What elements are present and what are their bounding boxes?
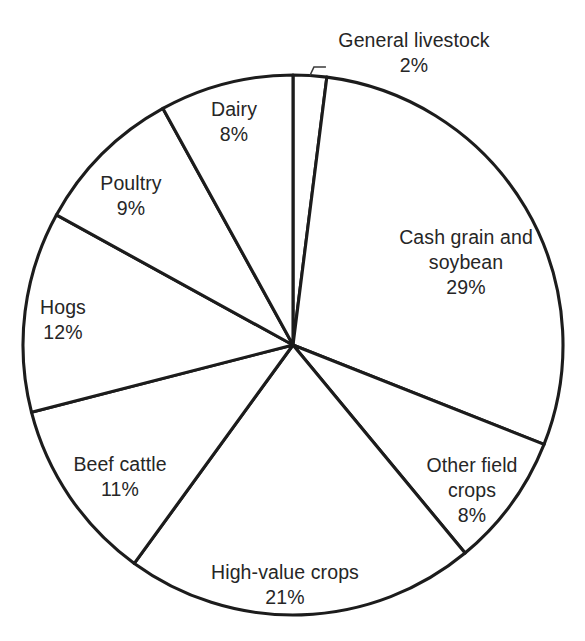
pie-label-name-line: soybean bbox=[399, 250, 533, 275]
pie-slices-group bbox=[23, 75, 563, 615]
pie-label-name-line: Cash grain and bbox=[399, 225, 533, 250]
pie-label-value: 11% bbox=[73, 477, 166, 502]
pie-label-name-line: Other field bbox=[426, 453, 517, 478]
pie-label-value: 29% bbox=[399, 274, 533, 299]
pie-label-general-livestock: General livestock2% bbox=[338, 28, 489, 78]
pie-label-cash-grain-and-soybean: Cash grain andsoybean29% bbox=[399, 225, 533, 300]
pie-label-name-line: Poultry bbox=[100, 171, 161, 196]
pie-label-value: 8% bbox=[426, 502, 517, 527]
pie-label-value: 8% bbox=[211, 122, 257, 147]
pie-label-dairy: Dairy8% bbox=[211, 97, 257, 147]
pie-chart: General livestock2%Cash grain andsoybean… bbox=[0, 0, 585, 641]
pie-label-value: 21% bbox=[211, 585, 359, 610]
pie-label-high-value-crops: High-value crops21% bbox=[211, 560, 359, 610]
pie-label-other-field-crops: Other fieldcrops8% bbox=[426, 453, 517, 528]
pie-label-poultry: Poultry9% bbox=[100, 171, 161, 221]
pie-label-name-line: Dairy bbox=[211, 97, 257, 122]
pie-label-value: 12% bbox=[40, 320, 86, 345]
pie-label-name-line: crops bbox=[426, 478, 517, 503]
pie-label-name-line: Beef cattle bbox=[73, 452, 166, 477]
pie-label-hogs: Hogs12% bbox=[40, 295, 86, 345]
pie-label-beef-cattle: Beef cattle11% bbox=[73, 452, 166, 502]
pie-chart-canvas bbox=[0, 0, 585, 641]
pie-label-name-line: High-value crops bbox=[211, 560, 359, 585]
pie-label-value: 9% bbox=[100, 196, 161, 221]
pie-label-name-line: Hogs bbox=[40, 295, 86, 320]
pie-label-value: 2% bbox=[338, 53, 489, 78]
pie-label-name-line: General livestock bbox=[338, 28, 489, 53]
